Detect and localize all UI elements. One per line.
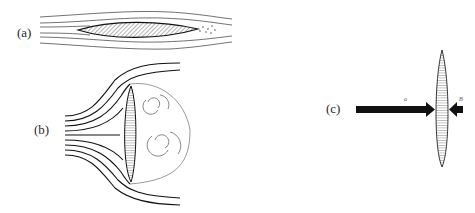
panel-c (356, 50, 463, 167)
left-arrow-label: a (404, 96, 407, 102)
flow-diagram (0, 0, 475, 213)
right-force-arrowhead (449, 102, 457, 117)
wake-dots (199, 25, 216, 34)
panel-b (65, 63, 190, 205)
panel-label-a: (a) (17, 25, 31, 41)
left-force-arrowhead (426, 102, 435, 117)
right-arrow-label: B (459, 96, 463, 102)
left-force-arrow-shaft (356, 106, 428, 113)
right-force-arrow-shaft (456, 106, 463, 113)
panel-label-b: (b) (34, 122, 49, 138)
wake-vortices (143, 95, 181, 156)
panel-a (40, 11, 232, 49)
panel-label-c: (c) (326, 101, 340, 117)
